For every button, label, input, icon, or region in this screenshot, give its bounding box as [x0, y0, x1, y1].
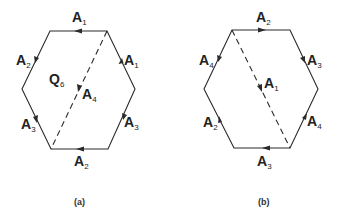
panel-a: A1 A1 A3 A2 A3 A2 Q6 A4 (a)	[16, 9, 139, 207]
label-a-upper-left: A2	[16, 52, 31, 70]
label-b-upper-right: A3	[307, 52, 322, 70]
label-b-diagonal: A1	[264, 75, 279, 93]
label-a-top: A1	[72, 9, 87, 27]
arrow-b-diagonal	[257, 84, 262, 92]
label-b-upper-left: A4	[199, 52, 214, 70]
label-b-bottom: A3	[257, 153, 272, 171]
label-b-lower-right: A4	[307, 113, 322, 131]
arrow-a-top	[74, 29, 82, 34]
label-a-upper-right: A1	[124, 52, 139, 70]
arrow-b-top	[258, 28, 266, 33]
label-b-lower-left: A2	[203, 114, 218, 132]
label-a-diagonal: A4	[82, 86, 97, 104]
label-a-lower-left: A3	[21, 116, 36, 134]
label-a-bottom: A2	[74, 153, 89, 171]
arrow-a-bottom	[76, 147, 84, 152]
label-a-lower-right: A3	[124, 114, 139, 132]
label-b-top: A2	[256, 9, 271, 27]
caption-a: (a)	[74, 197, 85, 207]
hexagon-figure: A1 A1 A3 A2 A3 A2 Q6 A4 (a)	[0, 0, 341, 217]
arrow-b-bottom	[262, 146, 270, 151]
arrow-b-upper-right	[300, 56, 305, 63]
caption-b: (b)	[258, 197, 270, 207]
label-a-center: Q6	[49, 71, 65, 89]
panel-b: A2 A3 A4 A3 A2 A4 A1 (b)	[199, 9, 322, 207]
